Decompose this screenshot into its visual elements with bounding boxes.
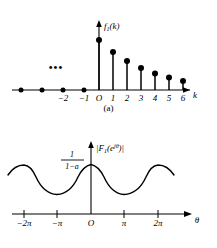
panel-a-y-axis-arrowhead <box>96 20 102 27</box>
panel-a-tick-4: 4 <box>153 93 158 103</box>
panel-b-tick--2pi: −2π <box>16 218 32 228</box>
panel-b-svg: −2π −π π 2π O θ 1 1−a |F1(ejθ)| <box>0 124 217 248</box>
panel-b-y-axis-arrowhead <box>88 141 94 148</box>
panel-a-caption: (a) <box>0 103 217 113</box>
panel-b-x-axis-arrowhead <box>184 211 192 217</box>
figure-container: −2 −1 1 2 3 4 5 6 O k ••• f1(k) (a) <box>0 0 217 248</box>
svg-text:|F1(ejθ)|: |F1(ejθ)| <box>96 143 124 154</box>
stem-head <box>138 65 144 71</box>
stem-head <box>152 71 158 77</box>
panel-b-origin-label: O <box>88 218 95 228</box>
panel-a-x-axis-arrowhead <box>183 87 190 93</box>
panel-a-tick-1: 1 <box>111 93 116 103</box>
stem-head <box>110 49 116 55</box>
panel-a-tick-5: 5 <box>167 93 172 103</box>
panel-b-tick-pi: π <box>122 218 127 228</box>
sample-dot <box>61 88 66 93</box>
panel-b-tick--pi: −π <box>52 218 63 228</box>
panel-a-stems <box>96 37 186 90</box>
panel-a-origin-label: O <box>96 93 103 103</box>
panel-a-tick--1: −1 <box>79 93 90 103</box>
panel-a-x-axis-label: k <box>193 90 198 100</box>
stem-head <box>96 37 102 43</box>
stem-head <box>166 75 172 81</box>
svg-text:f1(k): f1(k) <box>104 21 120 32</box>
sample-dot <box>19 88 24 93</box>
panel-a-tick-3: 3 <box>138 93 144 103</box>
panel-a-tick-6: 6 <box>181 93 186 103</box>
peak-numerator: 1 <box>70 150 74 159</box>
panel-a-y-axis-label: f1(k) <box>104 21 120 32</box>
panel-b-peak-value-label: 1 1−a <box>61 150 84 171</box>
panel-a-tick-2: 2 <box>125 93 130 103</box>
panel-a-tick--2: −2 <box>58 93 69 103</box>
panel-a-stem-plot: −2 −1 1 2 3 4 5 6 O k ••• f1(k) (a) <box>0 0 217 124</box>
peak-denominator: 1−a <box>65 162 78 171</box>
stem-head <box>180 78 186 84</box>
stem-head <box>124 58 130 64</box>
panel-b-y-axis-label: |F1(ejθ)| <box>96 143 124 154</box>
panel-b-dtft-plot: −2π −π π 2π O θ 1 1−a |F1(ejθ)| (b) <box>0 124 217 248</box>
sample-dot <box>40 88 45 93</box>
panel-a-ellipsis: ••• <box>49 61 64 73</box>
sample-dot <box>82 88 87 93</box>
panel-b-tick-2pi: 2π <box>153 218 163 228</box>
panel-b-x-axis-label: θ <box>195 215 200 225</box>
